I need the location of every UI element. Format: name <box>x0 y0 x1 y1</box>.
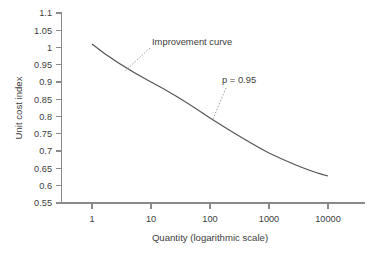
y-tick-label: 0.55 <box>34 198 52 208</box>
y-tick-label: 1 <box>47 43 52 53</box>
p-value-annotation: p = 0.95 <box>222 74 256 85</box>
y-tick-label: 0.9 <box>39 77 52 87</box>
y-tick-label: 0.6 <box>39 181 52 191</box>
improvement-curve-chart: 1.1 1.05 1 0.95 0.9 0.85 0.8 0.75 0.7 0.… <box>0 0 371 256</box>
y-tick-label: 0.95 <box>34 60 52 70</box>
y-tick-label: 0.7 <box>39 146 52 156</box>
x-tick-label: 1000 <box>259 214 279 224</box>
x-axis-title: Quantity (logarithmic scale) <box>152 232 268 243</box>
x-tick-group <box>92 203 328 209</box>
x-tick-label: 100 <box>202 214 217 224</box>
y-tick-label: 1.1 <box>39 8 52 18</box>
x-tick-labels: 1 10 100 1000 10000 <box>89 214 340 224</box>
y-tick-group <box>56 13 62 203</box>
y-axis-title: Unit cost index <box>13 76 24 139</box>
y-tick-label: 1.05 <box>34 26 52 36</box>
x-tick-label: 10000 <box>315 214 341 224</box>
chart-plot-area: 1.1 1.05 1 0.95 0.9 0.85 0.8 0.75 0.7 0.… <box>0 0 371 256</box>
x-tick-label: 10 <box>146 214 156 224</box>
y-tick-label: 0.8 <box>39 112 52 122</box>
y-tick-labels: 1.1 1.05 1 0.95 0.9 0.85 0.8 0.75 0.7 0.… <box>34 8 52 208</box>
p-value-leader-line <box>213 88 226 119</box>
x-tick-label: 1 <box>89 214 94 224</box>
y-tick-label: 0.65 <box>34 164 52 174</box>
improvement-curve-annotation: Improvement curve <box>152 36 232 47</box>
y-tick-label: 0.75 <box>34 129 52 139</box>
improvement-curve-leader-line <box>125 48 150 71</box>
improvement-curve-line <box>92 44 328 176</box>
y-tick-label: 0.85 <box>34 95 52 105</box>
